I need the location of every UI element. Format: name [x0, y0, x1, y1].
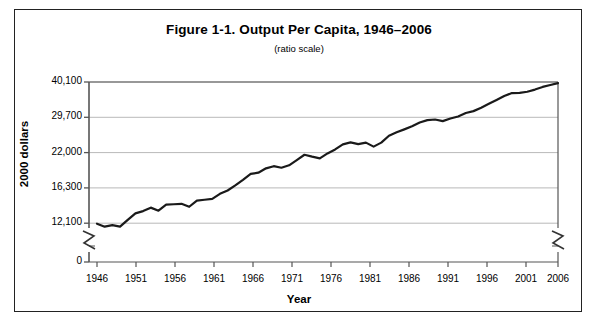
x-tick-label: 2006 — [534, 273, 582, 284]
y-tick-label: 0 — [23, 255, 82, 266]
y-tick-label: 29,700 — [23, 110, 82, 121]
y-tick-label: 40,100 — [23, 75, 82, 86]
axis-break-symbols — [83, 231, 564, 249]
figure-container: Figure 1-1. Output Per Capita, 1946–2006… — [0, 0, 598, 328]
plot-border — [89, 82, 558, 262]
data-series-line — [97, 83, 558, 227]
y-tick-label: 22,000 — [23, 146, 82, 157]
y-tick-label: 12,100 — [23, 216, 82, 227]
gridlines — [89, 82, 558, 223]
y-tick-label: 16,300 — [23, 181, 82, 192]
x-tick-marks — [97, 262, 558, 267]
